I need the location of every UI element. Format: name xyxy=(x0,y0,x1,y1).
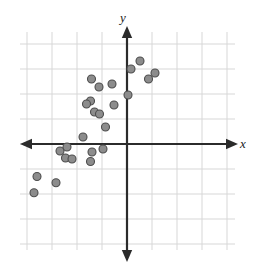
data-point xyxy=(127,65,135,73)
data-point xyxy=(33,173,41,181)
data-point xyxy=(124,91,132,99)
data-point xyxy=(110,101,118,109)
data-point xyxy=(151,69,159,77)
scatter-plot-figure: x y xyxy=(0,0,261,266)
coordinate-plane: x y xyxy=(0,0,261,266)
data-point xyxy=(63,143,71,151)
data-point xyxy=(88,148,96,156)
data-point xyxy=(52,179,60,187)
data-point xyxy=(79,133,87,141)
data-point xyxy=(95,83,103,91)
data-point xyxy=(108,80,116,88)
data-point xyxy=(96,110,104,118)
data-point xyxy=(99,145,107,153)
plot-background xyxy=(0,0,261,266)
data-point xyxy=(83,100,91,108)
data-point xyxy=(30,189,38,197)
data-point xyxy=(136,57,144,65)
data-point xyxy=(102,123,110,131)
x-axis-label: x xyxy=(239,136,246,151)
data-point xyxy=(68,155,76,163)
y-axis-label: y xyxy=(118,10,126,25)
data-point xyxy=(87,158,95,166)
data-point xyxy=(145,75,153,83)
data-point xyxy=(88,75,96,83)
